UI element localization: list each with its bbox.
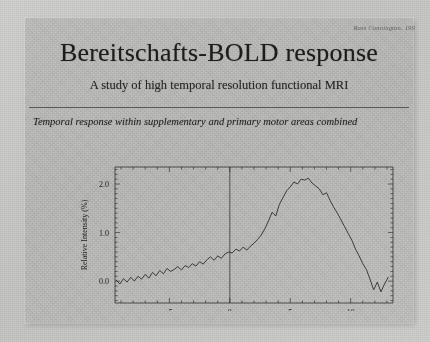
data-series-line [116,178,388,292]
header-divider [29,107,409,108]
slide-title: Bereitschafts-BOLD response [25,38,413,68]
x-tick-label: 10 [347,308,355,311]
x-tick-label: 5 [288,308,292,311]
slide-subtitle: A study of high temporal resolution func… [25,78,413,93]
bold-response-chart: 0.01.02.0-50510Time relative to movement… [63,136,403,311]
y-axis-title: Relative Intensity (%) [80,199,89,270]
y-tick-label: 2.0 [99,180,109,189]
x-tick-label: -5 [166,308,173,311]
plot-frame [115,167,393,303]
y-tick-label: 0.0 [99,277,109,286]
author-credit: Ross Cunnington, 199 [353,24,415,31]
y-tick-label: 1.0 [99,229,109,238]
chart-caption: Temporal response within supplementary a… [33,116,357,127]
chart-svg: 0.01.02.0-50510Time relative to movement… [63,136,403,311]
presentation-slide: Ross Cunnington, 199 Bereitschafts-BOLD … [25,18,413,323]
x-tick-label: 0 [228,308,232,311]
